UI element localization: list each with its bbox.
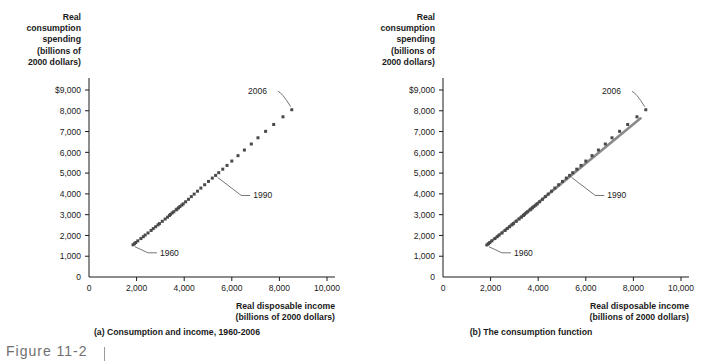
data-point xyxy=(230,160,233,163)
y-tick-label: 7,000 xyxy=(414,127,436,137)
data-point xyxy=(207,180,210,183)
annotation-label-1960: 1960 xyxy=(514,248,533,258)
data-point xyxy=(626,123,629,126)
y-axis-ticks-b: 01,0002,0003,0004,0005,0006,0007,0008,00… xyxy=(409,85,443,282)
data-point xyxy=(184,200,187,203)
annotations-b: 196019902006 xyxy=(489,86,645,257)
y-tick-label: 2,000 xyxy=(414,231,436,241)
data-point xyxy=(190,195,193,198)
data-point xyxy=(618,130,621,133)
data-point xyxy=(590,154,593,157)
x-axis-title-b: Real disposable income xyxy=(590,301,689,311)
y-tick-label: 6,000 xyxy=(60,148,82,158)
chart-panel-b: Realconsumptionspending(billions of2000 … xyxy=(354,0,708,355)
x-tick-label: 6,000 xyxy=(575,283,597,293)
data-point xyxy=(597,149,600,152)
y-axis-title-line: 2000 dollars) xyxy=(382,57,435,67)
data-point xyxy=(217,171,220,174)
y-axis-title-line: 2000 dollars) xyxy=(28,57,81,67)
annotation-label-1990: 1990 xyxy=(253,190,272,200)
panel-caption-a: (a) Consumption and income, 1960-2006 xyxy=(94,327,260,337)
y-axis-title-line: (billions of xyxy=(37,46,81,56)
data-point xyxy=(161,220,164,223)
x-axis-units-a: (billions of 2000 dollars) xyxy=(236,312,336,322)
y-tick-label: 0 xyxy=(76,272,81,282)
figure-number: Figure 11-2 xyxy=(6,343,88,359)
annotation-leader-line xyxy=(278,91,291,106)
data-point xyxy=(547,193,550,196)
y-axis-title-line: consumption xyxy=(26,23,81,33)
x-tick-label: 0 xyxy=(87,283,92,293)
annotation-leader-line xyxy=(572,177,605,195)
x-tick-label: 2,000 xyxy=(126,283,148,293)
x-tick-label: 8,000 xyxy=(623,283,645,293)
data-point xyxy=(610,136,613,139)
x-tick-label: 2,000 xyxy=(480,283,502,293)
data-point xyxy=(584,160,587,163)
y-tick-label: $9,000 xyxy=(55,85,81,95)
y-axis-title-line: (billions of xyxy=(391,46,435,56)
data-point xyxy=(243,149,246,152)
data-point xyxy=(553,187,556,190)
data-point xyxy=(187,198,190,201)
data-points-a xyxy=(132,108,294,246)
data-point xyxy=(203,183,206,186)
y-axis-title-line: spending xyxy=(42,34,81,44)
y-tick-label: 5,000 xyxy=(60,168,82,178)
y-tick-label: 1,000 xyxy=(60,251,82,261)
data-point xyxy=(561,180,564,183)
data-point xyxy=(136,239,139,242)
data-point xyxy=(571,171,574,174)
chart-panel-a: Realconsumptionspending(billions of2000 … xyxy=(0,0,354,355)
x-axis-ticks-b: 02,0004,0006,0008,00010,000 xyxy=(441,277,695,293)
data-point xyxy=(196,190,199,193)
data-point xyxy=(550,190,553,193)
y-tick-label: 4,000 xyxy=(60,189,82,199)
y-tick-label: 5,000 xyxy=(414,168,436,178)
data-point xyxy=(515,220,518,223)
data-point xyxy=(557,183,560,186)
data-point xyxy=(568,174,571,177)
data-point xyxy=(264,130,267,133)
data-point xyxy=(214,174,217,177)
data-point xyxy=(272,123,275,126)
data-point xyxy=(193,193,196,196)
y-axis-title-line: Real xyxy=(417,12,435,22)
y-tick-label: 3,000 xyxy=(414,210,436,220)
y-tick-label: 8,000 xyxy=(414,106,436,116)
data-point xyxy=(544,195,547,198)
data-point xyxy=(226,164,229,167)
data-point xyxy=(281,115,284,118)
y-axis-title-line: Real xyxy=(63,12,81,22)
annotation-leader-line xyxy=(632,91,645,106)
annotation-label-2006: 2006 xyxy=(602,86,621,96)
data-point xyxy=(604,143,607,146)
data-point xyxy=(250,143,253,146)
y-tick-label: 3,000 xyxy=(60,210,82,220)
annotation-leader-line xyxy=(218,177,251,195)
data-point xyxy=(644,108,647,111)
x-tick-label: 0 xyxy=(441,283,446,293)
x-axis-ticks-a: 02,0004,0006,0008,00010,000 xyxy=(87,277,341,293)
data-point xyxy=(144,234,147,237)
y-tick-label: 2,000 xyxy=(60,231,82,241)
data-point xyxy=(580,164,583,167)
chart-svg-a: Realconsumptionspending(billions of2000 … xyxy=(0,0,354,355)
data-point xyxy=(290,108,293,111)
data-point xyxy=(147,231,150,234)
data-point xyxy=(256,136,259,139)
annotations-a: 196019902006 xyxy=(135,86,291,257)
data-point xyxy=(512,222,515,225)
x-axis-units-b: (billions of 2000 dollars) xyxy=(590,312,690,322)
data-point xyxy=(541,198,544,201)
data-point xyxy=(575,168,578,171)
y-tick-label: 1,000 xyxy=(414,251,436,261)
x-tick-label: 4,000 xyxy=(528,283,550,293)
x-tick-label: 6,000 xyxy=(221,283,243,293)
chart-svg-b: Realconsumptionspending(billions of2000 … xyxy=(354,0,708,355)
y-tick-label: 8,000 xyxy=(60,106,82,116)
data-point xyxy=(158,222,161,225)
y-tick-label: $9,000 xyxy=(409,85,435,95)
x-tick-label: 10,000 xyxy=(668,283,694,293)
data-point xyxy=(199,187,202,190)
